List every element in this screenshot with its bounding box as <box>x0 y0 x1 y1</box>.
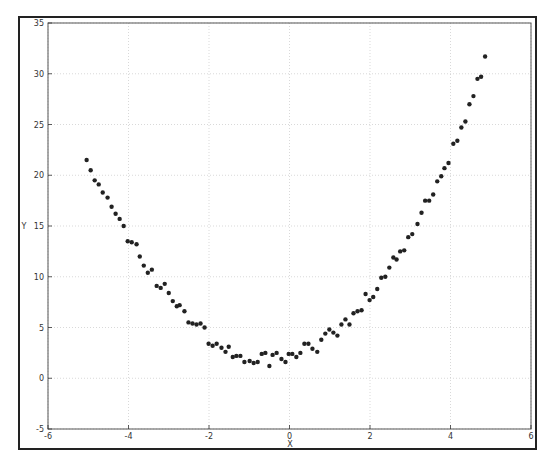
y-tick-label: 35 <box>34 19 44 28</box>
data-point <box>223 350 227 354</box>
data-point <box>402 248 406 252</box>
data-point <box>171 299 175 303</box>
data-point <box>302 342 306 346</box>
data-point <box>210 344 214 348</box>
data-point <box>270 353 274 357</box>
data-point <box>142 263 146 267</box>
data-point <box>247 359 251 363</box>
data-point <box>294 355 298 359</box>
y-tick-label: 30 <box>34 70 44 79</box>
data-point <box>283 360 287 364</box>
data-point <box>190 321 194 325</box>
data-point <box>163 282 167 286</box>
data-point <box>335 333 339 337</box>
data-point <box>234 354 238 358</box>
data-point <box>134 242 138 246</box>
grid-lines <box>48 23 531 429</box>
data-point <box>125 239 129 243</box>
data-point <box>387 265 391 269</box>
data-point <box>483 54 487 58</box>
data-point <box>446 161 450 165</box>
data-point <box>206 342 210 346</box>
x-tick-label: 2 <box>367 432 372 441</box>
data-point <box>419 211 423 215</box>
data-point <box>256 360 260 364</box>
data-point <box>423 198 427 202</box>
data-point <box>279 357 283 361</box>
data-point <box>406 235 410 239</box>
data-point <box>398 249 402 253</box>
data-point <box>88 168 92 172</box>
data-point <box>343 317 347 321</box>
data-point <box>455 139 459 143</box>
data-point <box>182 309 186 313</box>
data-point <box>202 325 206 329</box>
data-point <box>238 354 242 358</box>
data-point <box>331 330 335 334</box>
data-point <box>101 190 105 194</box>
data-point <box>263 351 267 355</box>
x-tick-label: -4 <box>125 432 133 441</box>
data-point <box>198 321 202 325</box>
data-point <box>109 205 113 209</box>
y-axis-label: Y <box>21 222 27 231</box>
data-point <box>310 347 314 351</box>
data-point <box>84 158 88 162</box>
data-point <box>138 254 142 258</box>
x-tick-label: 6 <box>528 432 533 441</box>
y-tick-label: 25 <box>34 121 44 130</box>
data-point <box>379 276 383 280</box>
data-point <box>394 257 398 261</box>
data-point <box>242 360 246 364</box>
data-point <box>298 351 302 355</box>
y-tick-label: 20 <box>34 171 44 180</box>
data-point <box>347 322 351 326</box>
x-tick-label: -6 <box>44 432 52 441</box>
data-point <box>367 298 371 302</box>
data-point <box>451 142 455 146</box>
data-point <box>359 308 363 312</box>
data-point <box>186 320 190 324</box>
data-point <box>463 119 467 123</box>
data-point <box>167 291 171 295</box>
data-point <box>105 195 109 199</box>
data-point <box>214 342 218 346</box>
x-tick-label: 4 <box>448 432 453 441</box>
data-point <box>410 232 414 236</box>
data-point <box>113 212 117 216</box>
data-point <box>371 295 375 299</box>
data-point <box>97 182 101 186</box>
data-point <box>467 102 471 106</box>
x-tick-label: -2 <box>205 432 213 441</box>
data-point <box>159 286 163 290</box>
data-point <box>274 351 278 355</box>
data-point <box>351 311 355 315</box>
axis-ticks: -6-4-20246-505101520253035 <box>34 19 534 441</box>
data-point <box>177 303 181 307</box>
data-point <box>150 267 154 271</box>
data-point <box>306 342 310 346</box>
data-point <box>355 309 359 313</box>
data-point <box>339 322 343 326</box>
data-point <box>442 166 446 170</box>
y-tick-label: 10 <box>34 273 44 282</box>
data-point <box>130 240 134 244</box>
data-point <box>227 345 231 349</box>
data-point <box>323 331 327 335</box>
data-point <box>154 284 158 288</box>
y-tick-label: 5 <box>39 324 44 333</box>
scatter-chart: -6-4-20246-505101520253035 X Y <box>0 0 555 465</box>
data-point <box>219 346 223 350</box>
data-point <box>121 224 125 228</box>
y-tick-label: 15 <box>34 222 44 231</box>
data-point <box>315 350 319 354</box>
data-point <box>363 292 367 296</box>
data-point <box>290 352 294 356</box>
data-point <box>415 222 419 226</box>
y-tick-label: -5 <box>36 425 44 434</box>
data-point <box>459 125 463 129</box>
data-point <box>146 270 150 274</box>
data-point <box>479 75 483 79</box>
data-point <box>251 361 255 365</box>
data-point <box>327 327 331 331</box>
